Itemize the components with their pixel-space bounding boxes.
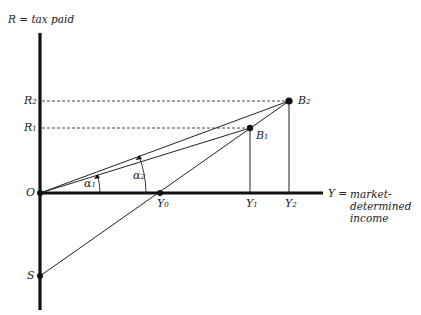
label-b1-sub: 1 [264,133,268,141]
x-axis-label-line1: market- [350,188,411,200]
tax-diagram: R = tax paid R2 R1 O S α1 α2 B2 B1 Y0 Y1… [0,0,421,315]
y-axis-label: R = tax paid [8,14,74,25]
diagram-lines [0,0,421,315]
label-s-text: S [27,269,35,282]
label-y0-sub: 0 [164,201,168,209]
x-axis-label-line3: income [350,212,411,224]
label-y0: Y0 [157,198,169,209]
point-b2 [285,97,292,104]
label-b2-base: B [298,94,306,107]
ray-o-b1 [40,128,250,193]
ray-o-b2 [40,101,289,193]
label-y1-sub: 1 [253,201,257,209]
label-b2-sub: 2 [306,98,310,106]
x-axis-label: Y = [328,188,347,199]
x-axis-label-prefix: Y = [328,187,347,199]
y-axis-label-text: R = tax paid [8,13,74,25]
label-r2-sub: 2 [32,98,36,106]
label-origin-text: O [26,186,35,199]
label-origin: O [26,187,35,198]
label-b1: B1 [256,130,269,141]
x-axis-label-line2: determined [350,200,411,212]
label-b2: B2 [298,95,311,106]
label-y1: Y1 [246,198,258,209]
x-axis-label-desc: market- determined income [350,188,411,224]
point-b1 [247,125,253,131]
label-b1-base: B [256,129,264,142]
label-y2-sub: 2 [292,201,296,209]
label-alpha2: α2 [133,170,145,181]
label-s: S [27,270,35,281]
point-y0 [157,190,163,196]
label-alpha2-sub: 2 [140,173,144,181]
label-alpha1-sub: 1 [91,181,95,189]
label-r1-sub: 1 [32,125,36,133]
label-r1: R1 [24,122,37,133]
label-r2: R2 [24,95,37,106]
label-y2: Y2 [285,198,297,209]
point-origin [37,190,43,196]
label-alpha1: α1 [84,178,96,189]
point-s [37,273,43,279]
